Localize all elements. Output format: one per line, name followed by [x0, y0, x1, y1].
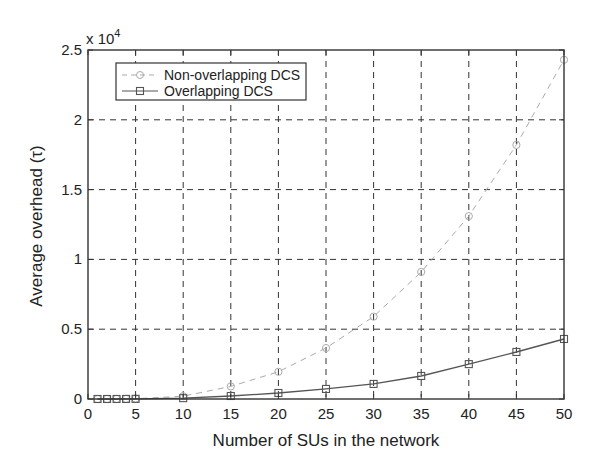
y-tick-label: 2.5: [61, 41, 82, 58]
x-tick-label: 0: [84, 405, 92, 422]
x-tick-label: 50: [556, 405, 573, 422]
x-tick-label: 45: [508, 405, 525, 422]
x-tick-label: 5: [131, 405, 139, 422]
y-multiplier-base: x 10: [86, 30, 114, 47]
x-tick-label: 35: [413, 405, 430, 422]
x-tick-label: 10: [175, 405, 192, 422]
y-multiplier-exponent: 4: [114, 27, 120, 39]
y-tick-label: 1: [74, 250, 82, 267]
y-tick-label: 2: [74, 111, 82, 128]
x-tick-label: 25: [318, 405, 335, 422]
x-tick-label: 20: [270, 405, 287, 422]
x-tick-label: 15: [222, 405, 239, 422]
legend: Non-overlapping DCS Overlapping DCS: [116, 63, 306, 100]
y-tick-label: 0.5: [61, 320, 82, 337]
x-tick-labels: 05101520253035404550: [84, 405, 573, 422]
y-axis-title: Average overhead (τ): [27, 145, 46, 306]
y-tick-label: 1.5: [61, 181, 82, 198]
chart: 05101520253035404550 00.511.522.5 x 104 …: [0, 0, 602, 475]
legend-label: Overlapping DCS: [164, 83, 273, 99]
plot-background: [88, 50, 564, 399]
y-tick-label: 0: [74, 390, 82, 407]
x-tick-label: 30: [365, 405, 382, 422]
x-tick-label: 40: [460, 405, 477, 422]
legend-label: Non-overlapping DCS: [164, 67, 300, 83]
y-tick-labels: 00.511.522.5: [61, 41, 82, 407]
y-multiplier: x 104: [86, 27, 120, 47]
x-axis-title: Number of SUs in the network: [213, 431, 440, 450]
